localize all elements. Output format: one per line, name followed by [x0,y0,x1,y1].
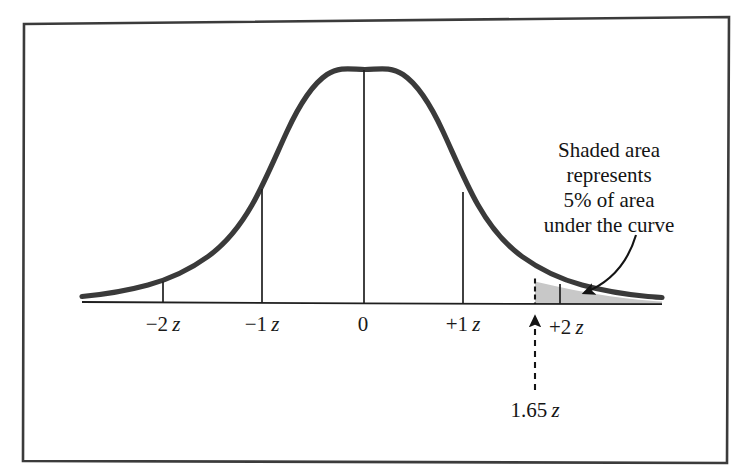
axis-tick-label-pos2: +2 z [549,315,584,339]
callout-line-3: 5% of area [564,188,656,212]
callout-line-1: Shaded area [558,138,661,162]
axis-tick-label-neg2: −2 z [146,312,181,336]
axis-tick-label-neg1: −1 z [245,312,280,336]
figure-container: −2 z −1 z 0 +1 z +2 z 1.65 z Shaded area… [0,0,747,474]
callout-line-4: under the curve [544,213,675,237]
axis-tick-label-pos1: +1 z [446,312,481,336]
axis-tick-label-zero: 0 [358,312,369,336]
normal-distribution-figure: −2 z −1 z 0 +1 z +2 z 1.65 z Shaded area… [0,0,747,474]
callout-line-2: represents [566,163,651,187]
marker-label-1-65z: 1.65 z [510,398,559,422]
